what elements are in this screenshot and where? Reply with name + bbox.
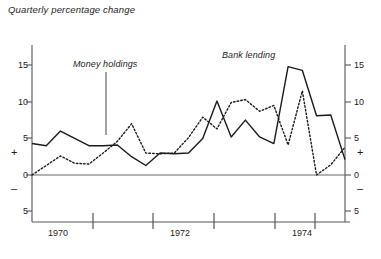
series-line-bank-lending (32, 67, 345, 166)
y-axis-right-ticks (345, 65, 351, 211)
series-line-money-holdings (32, 91, 345, 175)
chart-container: Quarterly percentage change Money holdin… (0, 0, 381, 259)
chart-plot-svg (0, 0, 381, 259)
x-axis-ticks (93, 213, 315, 229)
y-axis-left-ticks (26, 65, 32, 211)
